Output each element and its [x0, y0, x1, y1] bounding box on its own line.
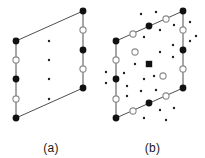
lattice-point-filled-circle	[13, 76, 20, 83]
lattice-point-filled-circle	[180, 85, 187, 92]
lattice-point-small-dot	[105, 71, 107, 73]
lattice-point-filled-circle	[13, 115, 20, 122]
lattice-point-small-dot	[48, 59, 50, 61]
lattice-point-open-circle	[160, 73, 166, 79]
lattice-point-filled-circle	[146, 23, 153, 30]
lattice-point-open-circle	[130, 31, 136, 37]
lattice-point-open-circle	[163, 16, 169, 22]
lattice-point-small-dot	[153, 75, 155, 77]
lattice-point-filled-circle	[180, 8, 187, 15]
lattice-point-filled-circle	[80, 8, 87, 15]
lattice-point-small-dot	[195, 35, 197, 37]
lattice-point-filled-circle	[113, 38, 120, 45]
lattice-point-small-dot	[159, 51, 161, 53]
lattice-point-small-dot	[189, 21, 191, 23]
lattice-point-small-dot	[172, 44, 174, 46]
panel-a: (a)	[0, 0, 102, 158]
lattice-point-small-dot	[48, 40, 50, 42]
lattice-point-filled-circle	[80, 47, 87, 54]
lattice-point-small-dot	[48, 78, 50, 80]
lattice-point-filled-circle	[113, 76, 120, 83]
panel-b-caption: (b)	[100, 142, 205, 154]
lattice-point-filled-circle	[13, 38, 20, 45]
lattice-point-filled-square	[146, 61, 152, 67]
lattice-point-small-dot	[143, 36, 145, 38]
lattice-point-small-dot	[105, 82, 107, 84]
lattice-point-small-dot	[123, 72, 125, 74]
unit-cell-outline	[16, 11, 83, 118]
lattice-point-filled-circle	[146, 100, 153, 107]
lattice-point-filled-circle	[80, 85, 87, 92]
lattice-point-small-dot	[159, 29, 161, 31]
lattice-point-filled-circle	[113, 115, 120, 122]
lattice-point-open-circle	[130, 108, 136, 114]
panel-a-drawing	[0, 0, 102, 132]
lattice-point-small-dot	[165, 119, 167, 121]
lattice-point-filled-circle	[180, 47, 187, 54]
lattice-point-open-circle	[13, 96, 19, 102]
lattice-point-small-dot	[159, 109, 161, 111]
lattice-point-open-circle	[113, 96, 119, 102]
lattice-point-small-dot	[172, 56, 174, 58]
lattice-point-small-dot	[48, 98, 50, 100]
lattice-figure: (a) (b)	[0, 0, 205, 158]
lattice-point-open-circle	[180, 66, 186, 72]
lattice-point-open-circle	[113, 57, 119, 63]
lattice-point-open-circle	[13, 57, 19, 63]
panel-a-caption: (a)	[0, 142, 102, 154]
panel-b: (b)	[100, 0, 205, 158]
lattice-point-small-dot	[173, 24, 175, 26]
lattice-point-small-dot	[155, 89, 157, 91]
lattice-point-small-dot	[189, 40, 191, 42]
lattice-point-small-dot	[143, 117, 145, 119]
lattice-point-small-dot	[173, 107, 175, 109]
lattice-point-open-circle	[80, 66, 86, 72]
lattice-point-small-dot	[134, 63, 136, 65]
lattice-point-small-dot	[140, 90, 142, 92]
lattice-point-open-circle	[180, 27, 186, 33]
lattice-point-small-dot	[126, 85, 128, 87]
lattice-point-small-dot	[155, 11, 157, 13]
panel-b-drawing	[100, 0, 205, 132]
lattice-point-open-circle	[80, 27, 86, 33]
lattice-point-small-dot	[140, 13, 142, 15]
lattice-point-small-dot	[126, 95, 128, 97]
lattice-point-open-circle	[163, 93, 169, 99]
lattice-point-small-dot	[143, 78, 145, 80]
lattice-point-open-circle	[132, 49, 138, 55]
